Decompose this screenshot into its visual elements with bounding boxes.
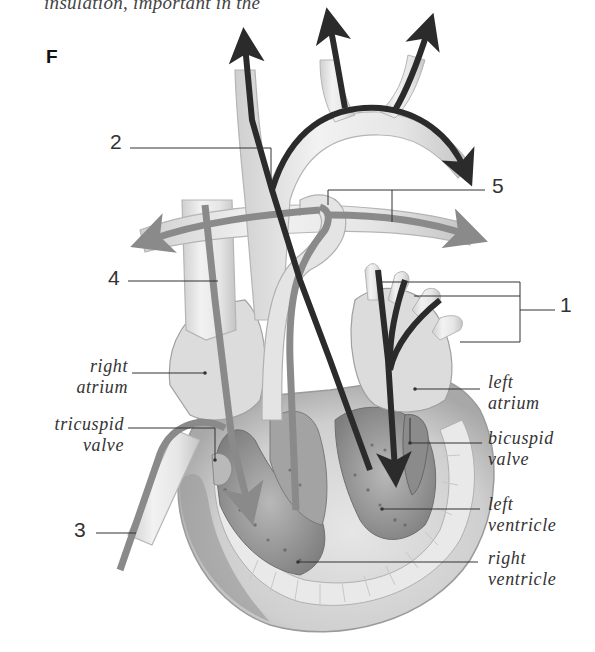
label-left-ventricle-line2: ventricle [488, 515, 556, 536]
label-right-atrium-line1: right [40, 356, 128, 377]
label-number-4: 4 [108, 266, 120, 290]
label-left-ventricle: left ventricle [488, 494, 556, 536]
label-right-atrium: right atrium [40, 356, 128, 398]
label-right-ventricle-line2: ventricle [488, 569, 556, 590]
label-bicuspid-valve-line2: valve [488, 449, 554, 470]
label-number-2: 2 [110, 130, 122, 154]
left-atrium-shape [351, 288, 452, 412]
label-number-5: 5 [492, 174, 504, 198]
label-left-atrium-line1: left [488, 372, 540, 393]
label-number-1: 1 [560, 293, 572, 317]
label-left-atrium: left atrium [488, 372, 540, 414]
label-right-atrium-line2: atrium [40, 377, 128, 398]
label-bicuspid-valve: bicuspid valve [488, 428, 554, 470]
label-tricuspid-valve-line1: tricuspid [28, 414, 124, 435]
label-right-ventricle: right ventricle [488, 548, 556, 590]
label-number-3: 3 [74, 518, 86, 542]
label-tricuspid-valve: tricuspid valve [28, 414, 124, 456]
label-left-ventricle-line1: left [488, 494, 556, 515]
label-bicuspid-valve-line1: bicuspid [488, 428, 554, 449]
label-right-ventricle-line1: right [488, 548, 556, 569]
label-left-atrium-line2: atrium [488, 393, 540, 414]
label-tricuspid-valve-line2: valve [28, 435, 124, 456]
